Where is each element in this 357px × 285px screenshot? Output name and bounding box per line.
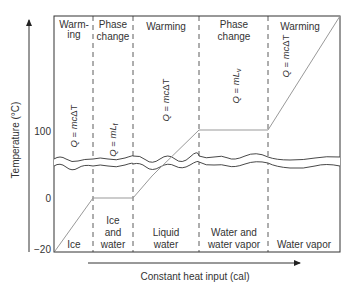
y-tick-100: 100 [34, 126, 51, 137]
svg-text:water: water [100, 239, 126, 250]
svg-text:Q = mcΔT: Q = mcΔT [160, 78, 171, 121]
svg-text:Q = mcΔT: Q = mcΔT [280, 34, 291, 77]
svg-text:Water vapor: Water vapor [277, 239, 332, 250]
y-axis-label: Temperature (°C) [10, 102, 21, 179]
region-equations: Q = mcΔT Q = mLf Q = mcΔT Q = mLv Q = mc… [68, 34, 291, 156]
svg-text:change: change [97, 31, 130, 42]
heating-curve-line [55, 16, 340, 251]
svg-text:Liquid: Liquid [153, 227, 180, 238]
svg-text:change: change [218, 31, 251, 42]
svg-text:Ice: Ice [67, 239, 81, 250]
state-labels: Ice Ice and water Liquid water Water and… [67, 215, 331, 250]
x-axis-label: Constant heat input (cal) [141, 271, 250, 282]
plot-frame [54, 16, 340, 252]
svg-text:Ice: Ice [106, 215, 120, 226]
svg-text:Warming: Warming [280, 21, 320, 32]
svg-text:Water and: Water and [211, 227, 257, 238]
svg-text:and: and [105, 227, 122, 238]
svg-text:water vapor: water vapor [207, 239, 261, 250]
svg-text:Warming: Warming [146, 21, 186, 32]
svg-text:Phase: Phase [99, 19, 128, 30]
y-tick-0: 0 [45, 193, 51, 204]
y-tick-minus20: −20 [34, 244, 51, 255]
svg-text:water: water [153, 239, 179, 250]
axis-break [54, 153, 340, 170]
heating-curve-diagram: Temperature (°C) 100 0 −20 Warm- ing Pha… [0, 0, 357, 285]
svg-text:Q = mLf: Q = mLf [107, 123, 119, 156]
svg-text:Q = mcΔT: Q = mcΔT [68, 104, 79, 147]
svg-text:Phase: Phase [220, 19, 249, 30]
svg-text:Q = mLv: Q = mLv [230, 68, 242, 103]
svg-text:ing: ing [67, 29, 80, 40]
